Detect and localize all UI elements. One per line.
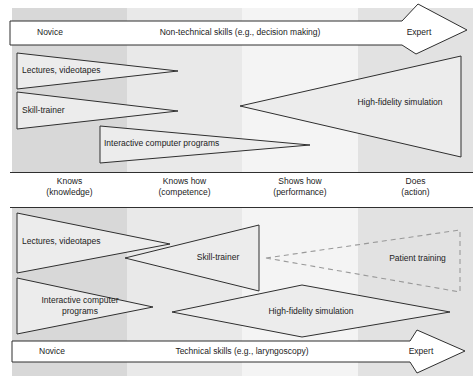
level-knows-how-sublabel: (competence)	[127, 187, 242, 198]
interactive-top-label: Interactive computer programs	[104, 138, 219, 149]
bottom-axis-novice-label: Novice	[22, 346, 82, 357]
top-axis-novice-label: Novice	[20, 27, 80, 38]
high-fidelity-top-label: High-fidelity simulation	[325, 97, 475, 108]
bottom-axis-expert-label: Expert	[391, 346, 451, 357]
level-knows-sublabel: (knowledge)	[12, 187, 127, 198]
level-knows-label: Knows	[12, 176, 127, 187]
skill-trainer-bottom-label: Skill-trainer	[163, 252, 273, 263]
skill-trainer-top-label: Skill-trainer	[22, 105, 65, 116]
patient-training-label: Patient training	[360, 253, 475, 264]
level-shows-how-sublabel: (performance)	[242, 187, 358, 198]
lectures-top-label: Lectures, videotapes	[22, 65, 100, 76]
level-shows-how: Shows how (performance)	[242, 176, 358, 198]
bottom-axis-title: Technical skills (e.g., laryngoscopy)	[142, 346, 342, 357]
level-does-sublabel: (action)	[358, 187, 473, 198]
level-knows: Knows (knowledge)	[12, 176, 127, 198]
interactive-bottom-label: Interactive computer programs	[28, 295, 132, 317]
top-axis-title: Non-technical skills (e.g., decision mak…	[120, 27, 360, 38]
level-does-label: Does	[358, 176, 473, 187]
level-knows-how-label: Knows how	[127, 176, 242, 187]
top-axis-expert-label: Expert	[389, 27, 449, 38]
level-knows-how: Knows how (competence)	[127, 176, 242, 198]
level-does: Does (action)	[358, 176, 473, 198]
simulation-training-figure: Novice Non-technical skills (e.g., decis…	[0, 0, 475, 382]
lectures-bottom-label: Lectures, videotapes	[22, 236, 100, 247]
high-fidelity-bottom-label: High-fidelity simulation	[236, 306, 386, 317]
level-shows-how-label: Shows how	[242, 176, 358, 187]
